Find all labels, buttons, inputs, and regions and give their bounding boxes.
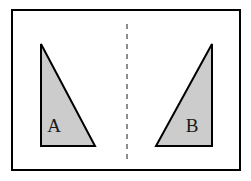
reflection-diagram: A B	[0, 0, 251, 181]
triangle-b-label: B	[186, 115, 199, 136]
triangle-a-label: A	[47, 115, 61, 136]
figure-container: A B	[0, 0, 251, 181]
